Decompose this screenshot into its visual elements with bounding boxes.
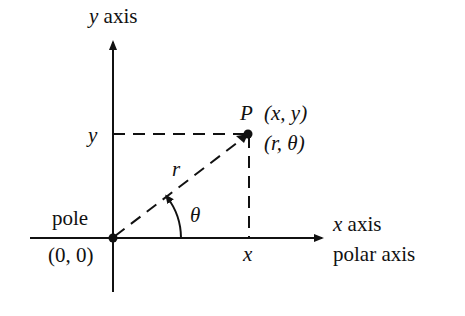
polar-coordinates-diagram: y axis y P (x, y) (r, θ) r θ pole (0, 0)… (0, 0, 465, 316)
x-axis-label-word: axis (348, 212, 382, 236)
point-p-label: P (239, 101, 253, 125)
pole-label: pole (52, 206, 88, 230)
y-axis-label: y axis (87, 4, 137, 28)
polar-axis-label: polar axis (333, 242, 415, 266)
angle-label: θ (190, 203, 200, 227)
pole-point (109, 234, 118, 243)
origin-coords-label: (0, 0) (48, 243, 94, 267)
y-axis-label-word: axis (104, 4, 138, 28)
y-axis-label-var: y (87, 4, 99, 28)
point-p-polar: (r, θ) (264, 131, 305, 155)
angle-arc (167, 197, 181, 238)
x-axis-label: x axis (332, 212, 381, 236)
point-p (244, 130, 253, 139)
x-tick-label: x (242, 242, 253, 266)
point-p-cartesian: (x, y) (264, 101, 307, 125)
y-tick-label: y (86, 123, 98, 147)
radius-dashed-line (115, 136, 246, 236)
x-axis-label-var: x (332, 212, 343, 236)
radius-label: r (172, 157, 181, 181)
